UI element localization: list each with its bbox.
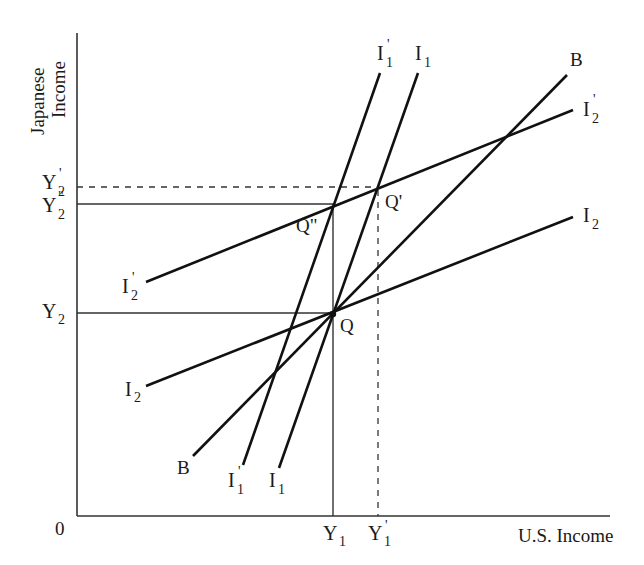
svg-text:I: I (122, 275, 129, 297)
svg-text:2: 2 (131, 288, 138, 303)
label-i2-left: I 2 (125, 378, 141, 405)
svg-text:I: I (583, 98, 590, 120)
svg-text:Y: Y (42, 194, 56, 216)
label-point-q-prime: Q' (385, 191, 402, 212)
svg-text:1: 1 (278, 482, 285, 497)
svg-text:I: I (269, 469, 276, 491)
svg-text:Y: Y (42, 300, 56, 322)
svg-text:B: B (177, 457, 190, 478)
label-i2-right: I 2 (583, 204, 599, 232)
tick-y1: Y 1 (323, 522, 346, 549)
svg-text:2: 2 (592, 217, 599, 232)
svg-text:1: 1 (237, 482, 244, 497)
svg-text:1: 1 (424, 55, 431, 70)
svg-text:1: 1 (339, 534, 346, 549)
svg-text:Y: Y (368, 522, 382, 544)
svg-text:2: 2 (134, 390, 141, 405)
origin-label: 0 (55, 518, 65, 539)
curve-i1-prime (243, 73, 380, 465)
svg-text:': ' (385, 518, 388, 533)
svg-text:': ' (59, 166, 62, 181)
label-i1-bottom: I 1 (269, 469, 285, 497)
y-axis-label-line1: Japanese (27, 67, 48, 135)
svg-text:2: 2 (58, 312, 65, 327)
label-i1-top: I 1 (415, 42, 431, 70)
svg-text:I: I (583, 204, 590, 226)
svg-text:': ' (132, 270, 135, 285)
label-i1-prime-bottom: I 1 ' (228, 464, 244, 497)
curve-i2-prime (146, 110, 573, 282)
point-q-marker (330, 311, 336, 317)
svg-text:B: B (570, 49, 583, 70)
tick-y2-doubleprime: Y 2 " (42, 189, 65, 222)
label-point-q-doubleprime: Q" (296, 215, 317, 236)
income-diagram: Japanese Income U.S. Income 0 Y 2 ' Y 2 … (0, 0, 644, 565)
curve-i1 (279, 73, 418, 468)
label-b-bottom: B (177, 457, 190, 478)
svg-text:Y: Y (323, 522, 337, 544)
svg-text:': ' (387, 37, 390, 52)
svg-text:': ' (593, 92, 596, 107)
label-i2-prime-right: I 2 ' (583, 92, 599, 126)
svg-text:1: 1 (384, 534, 391, 549)
svg-text:Y: Y (42, 171, 56, 193)
svg-text:I: I (228, 469, 235, 491)
label-i2-prime-left: I 2 ' (122, 270, 138, 303)
label-b-top: B (570, 49, 583, 70)
y-axis-label-line2: Income (48, 61, 69, 118)
curve-b (193, 75, 567, 456)
svg-text:I: I (377, 42, 384, 64)
svg-text:1: 1 (386, 55, 393, 70)
label-point-q: Q (340, 315, 354, 336)
label-i1-prime-top: I 1 ' (377, 37, 393, 70)
svg-text:2: 2 (592, 111, 599, 126)
svg-text:": " (58, 189, 64, 204)
tick-y1-prime: Y 1 ' (368, 518, 391, 549)
svg-text:': ' (238, 464, 241, 479)
svg-text:I: I (415, 42, 422, 64)
svg-text:2: 2 (58, 207, 65, 222)
x-axis-label: U.S. Income (518, 525, 614, 546)
tick-y2: Y 2 (42, 300, 65, 327)
svg-text:I: I (125, 378, 132, 400)
